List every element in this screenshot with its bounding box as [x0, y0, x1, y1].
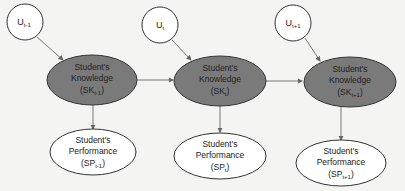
- node-sk-next: Student's Knowledge (SKt+1): [304, 57, 396, 107]
- svg-text:(SPt-1): (SPt-1): [81, 158, 105, 169]
- svg-text:(SPt+1): (SPt+1): [328, 169, 354, 180]
- svg-text:Performance: Performance: [317, 157, 366, 167]
- svg-text:Knowledge: Knowledge: [199, 74, 241, 84]
- svg-text:Performance: Performance: [196, 150, 245, 160]
- svg-text:Student's: Student's: [323, 146, 358, 156]
- node-sk-curr: Student's Knowledge (SKt): [174, 56, 266, 106]
- edge-u-next-to-sk-next: [305, 38, 320, 61]
- svg-text:(SKt+1): (SKt+1): [337, 87, 363, 98]
- svg-text:Student's: Student's: [202, 63, 237, 73]
- svg-text:Performance: Performance: [69, 146, 118, 156]
- node-sp-curr: Student's Performance (SPt): [174, 133, 266, 179]
- node-u-prev: Ut-1: [7, 4, 43, 40]
- svg-text:(SKt-1): (SKt-1): [80, 85, 104, 96]
- node-sp-prev: Student's Performance (SPt-1): [50, 129, 136, 175]
- svg-text:(SPt): (SPt): [211, 162, 230, 173]
- svg-text:Student's: Student's: [202, 139, 237, 149]
- svg-text:(SKt): (SKt): [211, 86, 230, 97]
- svg-text:Student's: Student's: [75, 135, 110, 145]
- edge-u-curr-to-sk-curr: [172, 40, 191, 60]
- svg-text:Student's: Student's: [332, 64, 367, 74]
- node-sp-next: Student's Performance (SPt+1): [296, 140, 386, 186]
- node-sk-prev: Student's Knowledge (SKt-1): [47, 55, 137, 105]
- edge-u-prev-to-sk-prev: [37, 37, 63, 60]
- node-u-next: Ut+1: [275, 5, 311, 41]
- svg-text:Knowledge: Knowledge: [329, 75, 371, 85]
- node-u-curr: Ut: [142, 7, 178, 43]
- dbn-diagram: Ut-1 Ut Ut+1 Student's Knowledge (SKt-1)…: [0, 0, 405, 191]
- svg-text:Student's: Student's: [74, 62, 109, 72]
- svg-text:Knowledge: Knowledge: [71, 73, 113, 83]
